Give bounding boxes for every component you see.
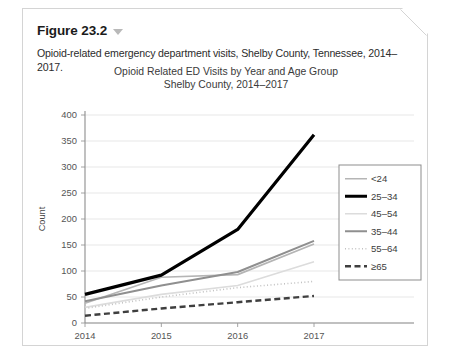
legend-label[interactable]: 55–64 bbox=[371, 243, 398, 254]
legend-label[interactable]: 45–54 bbox=[371, 208, 398, 219]
legend-label[interactable]: 35–44 bbox=[371, 226, 398, 237]
chart-container: Opioid Related ED Visits by Year and Age… bbox=[23, 65, 429, 345]
x-axis-tick-label: 2016 bbox=[227, 330, 248, 341]
figure-card: Figure 23.2 Opioid-related emergency dep… bbox=[22, 8, 428, 346]
y-axis-tick-label: 150 bbox=[61, 239, 77, 250]
y-axis-tick-label: 300 bbox=[61, 161, 77, 172]
y-axis-tick-label: 350 bbox=[61, 135, 77, 146]
y-axis-tick-label: 200 bbox=[61, 213, 77, 224]
y-axis-tick-label: 100 bbox=[61, 265, 77, 276]
y-axis-tick-label: 250 bbox=[61, 187, 77, 198]
figure-label: Figure 23.2 bbox=[37, 23, 107, 38]
x-axis-tick-label: 2017 bbox=[304, 330, 325, 341]
legend-label[interactable]: ≥65 bbox=[371, 261, 387, 272]
y-axis-tick-label: 0 bbox=[72, 317, 77, 328]
series-line bbox=[85, 296, 314, 316]
y-axis-tick-label: 400 bbox=[61, 109, 77, 120]
series-line bbox=[85, 135, 314, 295]
x-axis-tick-label: 2015 bbox=[151, 330, 172, 341]
y-axis-title: Count bbox=[37, 206, 47, 231]
line-chart-plot: 050100150200250300350400Count20142015201… bbox=[23, 65, 429, 345]
legend-label[interactable]: <24 bbox=[371, 173, 388, 184]
screenshot-root: Figure 23.2 Opioid-related emergency dep… bbox=[0, 0, 449, 356]
y-axis-tick-label: 50 bbox=[67, 291, 77, 302]
card-fold-corner-icon bbox=[400, 9, 427, 36]
x-axis-tick-label: 2014 bbox=[75, 330, 96, 341]
chevron-down-icon[interactable] bbox=[113, 29, 123, 35]
legend-label[interactable]: 25–34 bbox=[371, 191, 398, 202]
figure-header: Figure 23.2 bbox=[37, 23, 123, 38]
